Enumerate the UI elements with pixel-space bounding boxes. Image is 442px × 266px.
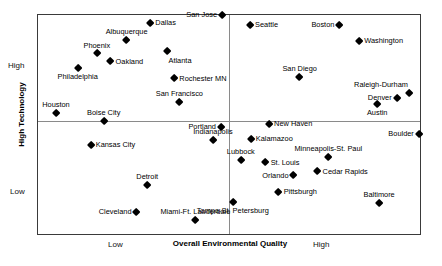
data-point-label: Baltimore — [364, 190, 395, 199]
data-point-marker — [143, 181, 152, 190]
data-point-marker — [392, 94, 401, 103]
data-point-label: Cleveland — [99, 207, 132, 216]
data-point-marker — [86, 140, 95, 149]
x-axis-title: Overall Environmental Quality — [140, 239, 320, 248]
quadrant-divider-horizontal — [38, 121, 420, 122]
data-point-label: Philadelphia — [58, 72, 98, 81]
data-point-label: San Diego — [282, 64, 317, 73]
data-point-label: Albuquerque — [106, 27, 148, 36]
data-point-marker — [274, 188, 283, 197]
plot-area: San JoseDallasSeattleBostonAlbuquerqueWa… — [37, 14, 421, 235]
data-point-label: Boise City — [87, 108, 120, 117]
data-point-marker — [218, 10, 227, 19]
data-point-marker — [404, 89, 413, 98]
data-point-marker — [246, 134, 255, 143]
data-point-marker — [324, 152, 333, 161]
data-point-marker — [208, 135, 217, 144]
data-point-label: Lubbock — [227, 147, 255, 156]
data-point-label: Washington — [364, 36, 403, 45]
data-point-label: Miami-Ft. Lauderdale — [160, 207, 230, 216]
data-point-label: Cedar Rapids — [323, 167, 368, 176]
data-point-marker — [106, 57, 115, 66]
y-axis-title: High Technology — [17, 70, 26, 160]
data-point-marker — [236, 155, 245, 164]
data-point-label: Rochester MN — [179, 74, 226, 83]
data-point-marker — [375, 199, 384, 208]
data-point-label: Phoenix — [83, 41, 110, 50]
y-axis-tick-low: Low — [10, 187, 25, 196]
data-point-marker — [245, 20, 254, 29]
data-point-label: Pittsburgh — [284, 187, 317, 196]
data-point-marker — [132, 208, 141, 217]
data-point-marker — [191, 216, 200, 225]
data-point-label: Dallas — [155, 18, 176, 27]
data-point-label: New Haven — [274, 119, 312, 128]
data-point-marker — [51, 109, 60, 118]
data-point-label: Seattle — [255, 20, 278, 29]
data-point-marker — [414, 129, 423, 138]
data-point-label: Austin — [367, 108, 388, 117]
data-point-marker — [335, 20, 344, 29]
data-point-label: Atlanta — [168, 56, 191, 65]
data-point-label: Houston — [42, 100, 70, 109]
data-point-label: Orlando — [262, 171, 288, 180]
data-point-label: San Francisco — [156, 89, 203, 98]
x-axis-tick-low: Low — [108, 240, 123, 249]
data-point-marker — [92, 49, 101, 58]
data-point-label: St. Louis — [271, 158, 300, 167]
data-point-label: Indianapolis — [193, 127, 232, 136]
data-point-marker — [99, 116, 108, 125]
data-point-marker — [175, 98, 184, 107]
data-point-label: Minneapolis-St. Paul — [294, 144, 362, 153]
data-point-marker — [295, 73, 304, 82]
scatter-chart: San JoseDallasSeattleBostonAlbuquerqueWa… — [0, 0, 442, 266]
data-point-label: Boulder — [388, 129, 413, 138]
data-point-marker — [313, 167, 322, 176]
data-point-label: Raleigh-Durham — [354, 80, 408, 89]
data-point-label: Detroit — [136, 172, 158, 181]
data-point-label: Kansas City — [96, 140, 135, 149]
data-point-label: San Jose — [186, 10, 217, 19]
data-point-marker — [289, 171, 298, 180]
data-point-marker — [355, 36, 364, 45]
data-point-label: Oakland — [116, 57, 144, 66]
data-point-marker — [122, 35, 131, 44]
data-point-label: Kalamazoo — [256, 134, 293, 143]
data-point-label: Boston — [311, 20, 334, 29]
data-point-marker — [261, 158, 270, 167]
data-point-marker — [170, 74, 179, 83]
data-point-label: Denver — [368, 93, 392, 102]
